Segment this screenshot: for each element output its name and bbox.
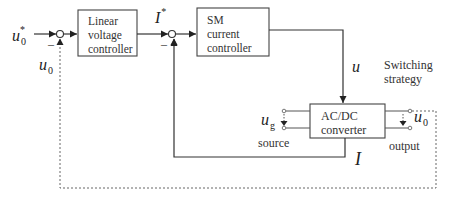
- sum1-minus-sign: –: [48, 38, 54, 50]
- source-label: source: [258, 137, 289, 149]
- sm-controller-text: SM current controller: [207, 13, 252, 55]
- reference-voltage-label: u0*: [12, 28, 25, 44]
- converter-text: AC/DC converter: [321, 109, 366, 137]
- reference-current-label: I*: [155, 10, 166, 26]
- summing-junction-1: [57, 31, 64, 38]
- sum2-minus-sign: –: [161, 38, 167, 50]
- switching-strategy-label: Switching strategy: [384, 58, 433, 86]
- output-label: output: [389, 140, 420, 152]
- feedback-current-label: I: [355, 150, 361, 168]
- voltage-controller-text: Linear voltage controller: [88, 14, 133, 56]
- summing-junction-2: [169, 31, 176, 38]
- output-voltage-label: u0: [414, 109, 428, 125]
- feedback-voltage-label: u0: [39, 57, 53, 73]
- control-signal-label: u: [352, 59, 360, 75]
- source-voltage-label: ug: [261, 112, 275, 128]
- control-signal-line: [269, 30, 343, 103]
